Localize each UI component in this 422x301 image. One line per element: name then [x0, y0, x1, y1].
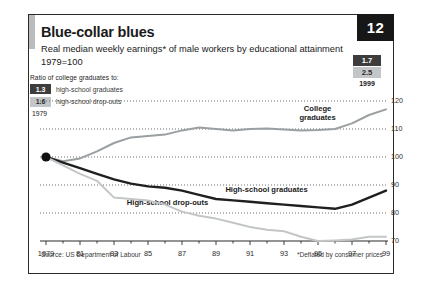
x-axis-tick-label: 99 [371, 249, 401, 258]
x-axis-tick-label: 87 [167, 249, 197, 258]
ratio-legend: Ratio of college graduates to: 1.3 high-… [30, 74, 123, 117]
legend-heading: Ratio of college graduates to: [30, 74, 123, 81]
y-axis-tick-label: 100 [391, 152, 403, 161]
x-axis-tick-label: 97 [337, 249, 367, 258]
y-axis-tick-label: 120 [391, 96, 403, 105]
x-axis-tick-label: 83 [99, 249, 129, 258]
legend-chip-value: 1.6 [30, 97, 51, 107]
x-axis-tick-label: 89 [201, 249, 231, 258]
legend-chip-value: 1.3 [30, 84, 51, 94]
x-axis-tick-label: 81 [65, 249, 95, 258]
x-axis-tick-label: 1979 [31, 249, 61, 258]
chart-number-badge: 12 [357, 14, 394, 41]
chart-subtitle-line1: Real median weekly earnings* of male wor… [41, 44, 343, 54]
legend-year-start: 1979 [32, 110, 123, 117]
chart-title: Blue-collar blues [41, 24, 154, 40]
accent-bar [29, 15, 35, 49]
legend-item-hs-dropouts: 1.6 high-school drop-outs [30, 96, 123, 107]
legend-item-hs-graduates: 1.3 high-school graduates [30, 84, 123, 95]
end-chip-hs-graduates: 1.7 [353, 55, 381, 66]
x-axis-tick-label: 95 [303, 249, 333, 258]
series-label-high-school-graduates: High-school graduates [225, 186, 307, 195]
legend-item-label: high-school graduates [56, 86, 123, 93]
series-label-college-graduates: College graduates [299, 105, 335, 122]
end-chip-hs-dropouts: 2.5 [353, 67, 381, 78]
series-label-high-school-dropouts: High-school drop-outs [127, 199, 208, 208]
legend-item-label: high-school drop-outs [56, 98, 121, 105]
series-label-line2: graduates [299, 114, 335, 123]
legend-year-end: 1999 [353, 80, 381, 87]
y-axis-tick-label: 110 [391, 124, 402, 133]
ratio-legend-end: 1.7 2.5 1999 [353, 55, 381, 87]
y-axis-tick-label: 70 [391, 236, 399, 245]
x-axis-tick-label: 85 [133, 249, 163, 258]
y-axis-tick-label: 80 [391, 208, 399, 217]
chart-subtitle-line2: 1979=100 [41, 57, 83, 67]
x-axis-tick-label: 93 [269, 249, 299, 258]
y-axis-tick-label: 90 [391, 180, 399, 189]
chart-card: Blue-collar blues Real median weekly ear… [28, 14, 394, 274]
x-axis-tick-label: 91 [235, 249, 265, 258]
